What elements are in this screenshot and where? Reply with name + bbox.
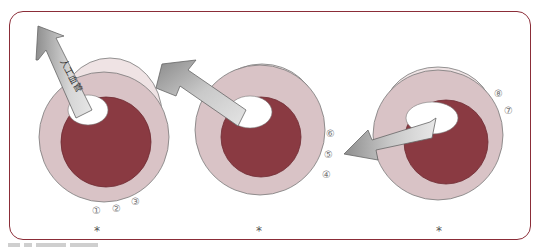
- marker-2: ②: [112, 203, 121, 214]
- panel-1-vessel: [39, 58, 169, 202]
- asterisk-3: *: [436, 224, 442, 238]
- marker-5: ⑤: [324, 149, 333, 160]
- marker-3: ③: [131, 196, 140, 207]
- asterisk-1: *: [94, 224, 100, 238]
- cropped-caption: [8, 243, 168, 248]
- panel-2-vessel: [195, 64, 325, 195]
- marker-1: ①: [92, 205, 101, 216]
- asterisk-2: *: [256, 224, 262, 238]
- vessel-diagram: 人工血管 ① ② ③ * ⑥ ⑤ ④ * ⑧ ⑦ *: [0, 0, 540, 248]
- marker-8: ⑧: [494, 88, 503, 99]
- marker-6: ⑥: [326, 128, 335, 139]
- marker-4: ④: [322, 169, 331, 180]
- marker-7: ⑦: [504, 105, 513, 116]
